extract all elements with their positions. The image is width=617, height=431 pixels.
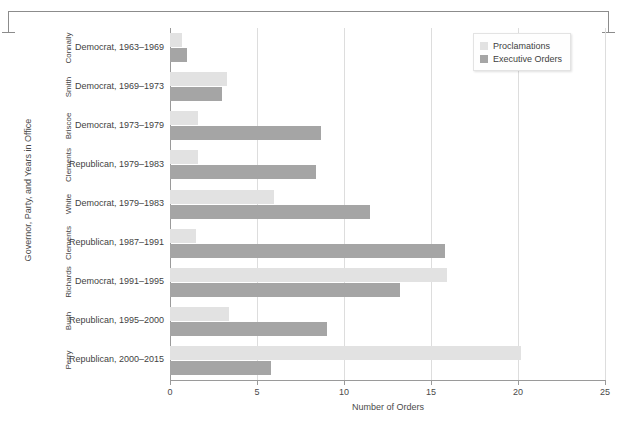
- plot-area: [170, 28, 605, 380]
- bar-executive-orders[interactable]: [170, 126, 321, 140]
- legend-label-proclamations: Proclamations: [493, 41, 550, 51]
- row-governor-label: Connally: [64, 26, 73, 70]
- x-tick-mark-25: [605, 381, 606, 385]
- bar-proclamations[interactable]: [170, 268, 447, 282]
- bar-proclamations[interactable]: [170, 229, 196, 243]
- row-party-years-label: Democrat, 1991–1995: [0, 276, 164, 286]
- gridline-x-25: [605, 28, 606, 380]
- row-party-years-label: Democrat, 1969–1973: [0, 81, 164, 91]
- row-party-years-label: Democrat, 1979–1983: [0, 198, 164, 208]
- x-axis-line: [170, 380, 606, 381]
- bar-executive-orders[interactable]: [170, 48, 187, 62]
- row-governor-label: Briscoe: [64, 104, 73, 148]
- bar-group: [170, 346, 605, 375]
- bar-executive-orders[interactable]: [170, 165, 316, 179]
- bar-proclamations[interactable]: [170, 150, 198, 164]
- row-governor-label: Clements: [64, 143, 73, 187]
- chart-legend: Proclamations Executive Orders: [473, 33, 571, 71]
- bar-group: [170, 72, 605, 101]
- legend-item-executive-orders[interactable]: Executive Orders: [480, 52, 562, 65]
- bar-proclamations[interactable]: [170, 33, 182, 47]
- legend-swatch-proclamations: [480, 42, 488, 50]
- x-tick-label-10: 10: [339, 387, 349, 397]
- x-tick-label-15: 15: [426, 387, 436, 397]
- row-party-years-label: Democrat, 1973–1979: [0, 120, 164, 130]
- row-governor-label: White: [64, 182, 73, 226]
- legend-label-executive-orders: Executive Orders: [493, 54, 562, 64]
- bar-executive-orders[interactable]: [170, 205, 370, 219]
- row-party-years-label: Democrat, 1963–1969: [0, 42, 164, 52]
- bar-proclamations[interactable]: [170, 111, 198, 125]
- bar-group: [170, 111, 605, 140]
- x-tick-mark-20: [518, 381, 519, 385]
- bar-group: [170, 307, 605, 336]
- row-governor-label: Smith: [64, 65, 73, 109]
- x-tick-label-5: 5: [254, 387, 259, 397]
- bar-proclamations[interactable]: [170, 307, 229, 321]
- bar-group: [170, 268, 605, 297]
- bar-executive-orders[interactable]: [170, 283, 400, 297]
- bar-proclamations[interactable]: [170, 72, 227, 86]
- bar-executive-orders[interactable]: [170, 322, 327, 336]
- row-governor-label: Bush: [64, 299, 73, 343]
- bar-proclamations[interactable]: [170, 190, 274, 204]
- x-tick-label-0: 0: [167, 387, 172, 397]
- row-party-years-label: Republican, 1995–2000: [0, 315, 164, 325]
- x-tick-mark-0: [170, 381, 171, 385]
- x-tick-mark-5: [257, 381, 258, 385]
- bar-executive-orders[interactable]: [170, 361, 271, 375]
- bar-chart: 0510152025 Number of Orders Governor, Pa…: [0, 0, 617, 431]
- row-governor-label: Clements: [64, 221, 73, 265]
- row-governor-label: Perry: [64, 338, 73, 382]
- x-tick-mark-15: [431, 381, 432, 385]
- x-tick-mark-10: [344, 381, 345, 385]
- x-axis-title: Number of Orders: [170, 402, 606, 412]
- row-party-years-label: Republican, 2000–2015: [0, 354, 164, 364]
- x-tick-label-20: 20: [513, 387, 523, 397]
- bar-group: [170, 229, 605, 258]
- legend-swatch-executive-orders: [480, 55, 488, 63]
- bar-executive-orders[interactable]: [170, 244, 445, 258]
- bar-proclamations[interactable]: [170, 346, 521, 360]
- row-party-years-label: Republican, 1979–1983: [0, 159, 164, 169]
- row-governor-label: Richards: [64, 260, 73, 304]
- legend-item-proclamations[interactable]: Proclamations: [480, 39, 562, 52]
- x-tick-label-25: 25: [600, 387, 610, 397]
- bar-group: [170, 190, 605, 219]
- bar-group: [170, 150, 605, 179]
- row-party-years-label: Republican, 1987–1991: [0, 237, 164, 247]
- bar-executive-orders[interactable]: [170, 87, 222, 101]
